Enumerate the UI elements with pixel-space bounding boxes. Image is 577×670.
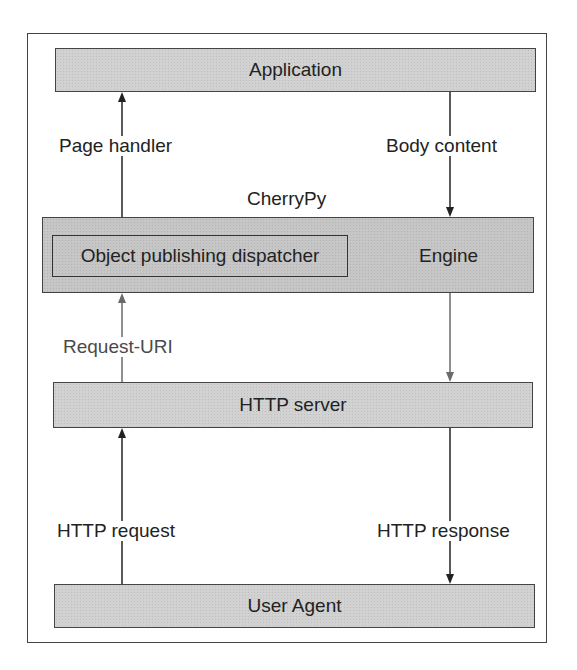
http-request-label: HTTP request — [55, 521, 177, 541]
page-handler-label: Page handler — [57, 136, 174, 156]
application-box: Application — [55, 48, 536, 92]
connector-arrows — [0, 0, 577, 670]
http-response-arrow — [446, 428, 454, 584]
http-server-box: HTTP server — [53, 382, 533, 428]
cherrypy-title: CherryPy — [245, 189, 328, 209]
http-request-arrow — [118, 428, 126, 584]
user-agent-label: User Agent — [248, 595, 342, 617]
application-label: Application — [249, 59, 342, 81]
body-content-label: Body content — [384, 136, 499, 156]
request-uri-label: Request-URI — [61, 337, 175, 357]
page-handler-arrow — [118, 92, 126, 235]
http-server-label: HTTP server — [239, 394, 346, 416]
engine-label: Engine — [419, 245, 478, 267]
dispatcher-box: Object publishing dispatcher — [52, 235, 348, 277]
engine-to-server-arrow — [446, 293, 454, 382]
user-agent-box: User Agent — [54, 584, 535, 628]
http-response-label: HTTP response — [375, 521, 512, 541]
dispatcher-label: Object publishing dispatcher — [81, 245, 320, 267]
